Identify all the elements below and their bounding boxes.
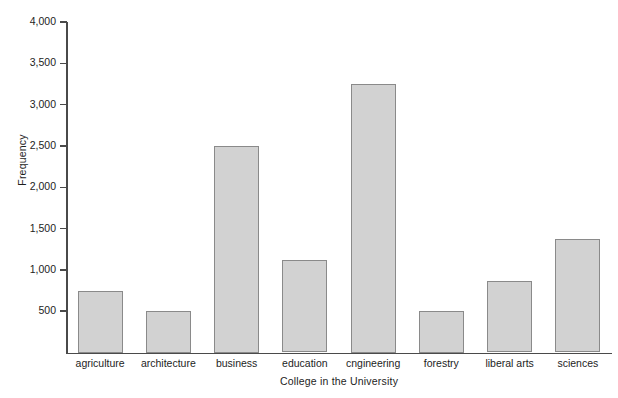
- y-axis-tick-label-wrap: 3,000: [0, 98, 56, 110]
- y-axis-tick-label: 4,000: [2, 15, 56, 27]
- y-axis-tick-label: 2,500: [2, 139, 56, 151]
- bar: [78, 291, 123, 353]
- x-axis-tick-label: education: [271, 357, 339, 369]
- y-axis-tick-label: 2,000: [2, 180, 56, 192]
- x-axis-tick-label: sciences: [544, 357, 612, 369]
- y-axis-tick-label: 3,000: [2, 98, 56, 110]
- x-axis-title: College in the University: [66, 375, 612, 387]
- bar: [214, 146, 259, 353]
- y-axis-tick-label: 500: [2, 304, 56, 316]
- y-axis-tick: [60, 228, 67, 230]
- y-axis-tick: [60, 21, 67, 23]
- y-axis-tick-label-wrap: 2,000: [0, 180, 56, 192]
- y-axis-tick-label-wrap: 500: [0, 304, 56, 316]
- bar: [419, 311, 464, 352]
- x-axis-tick-label: architecture: [134, 357, 202, 369]
- bar: [487, 281, 532, 353]
- y-axis-tick: [60, 104, 67, 106]
- y-axis-tick: [60, 63, 67, 65]
- y-axis-tick: [60, 145, 67, 147]
- x-axis-tick-label: cngineering: [339, 357, 407, 369]
- x-axis-line: [66, 353, 612, 355]
- y-axis-tick-label: 3,500: [2, 56, 56, 68]
- bar: [146, 311, 191, 352]
- y-axis-line: [66, 22, 68, 354]
- scan-artifact-band: [0, 392, 618, 398]
- x-axis-tick-label: liberal arts: [476, 357, 544, 369]
- y-axis-tick: [60, 310, 67, 312]
- y-axis-title: Frequency: [16, 110, 28, 210]
- x-axis-tick-label: agriculture: [66, 357, 134, 369]
- bar: [282, 260, 327, 353]
- x-axis-tick-label: forestry: [407, 357, 475, 369]
- bar: [351, 84, 396, 353]
- bar-chart: Frequency 5001,0001,5002,0002,5003,0003,…: [0, 0, 618, 398]
- y-axis-tick-label-wrap: 1,500: [0, 222, 56, 234]
- y-axis-tick-label-wrap: 3,500: [0, 56, 56, 68]
- y-axis-tick-label-wrap: 1,000: [0, 263, 56, 275]
- y-axis-tick: [60, 269, 67, 271]
- bar: [555, 239, 600, 352]
- y-axis-tick-label: 1,000: [2, 263, 56, 275]
- x-axis-tick-label: business: [203, 357, 271, 369]
- y-axis-tick-label-wrap: 2,500: [0, 139, 56, 151]
- y-axis-tick-label: 1,500: [2, 222, 56, 234]
- y-axis-tick: [60, 187, 67, 189]
- y-axis-tick-label-wrap: 4,000: [0, 15, 56, 27]
